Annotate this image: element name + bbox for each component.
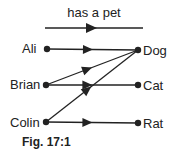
arrow-colin-to-rat bbox=[46, 118, 138, 127]
node-dot-brian bbox=[43, 82, 49, 88]
relation-arrow bbox=[45, 23, 143, 33]
arrow-brian-to-dog bbox=[46, 50, 138, 85]
arrow-colin-to-dog bbox=[46, 50, 138, 122]
arrow-ali-to-dog bbox=[47, 45, 138, 54]
node-dot-dog bbox=[135, 47, 141, 53]
codomain-label-rat: Rat bbox=[143, 116, 164, 131]
mapping-diagram: has a pet Ali Brian Colin Dog Cat Rat Fi… bbox=[0, 0, 176, 157]
relation-label: has a pet bbox=[67, 5, 121, 20]
node-dot-ali bbox=[44, 46, 50, 52]
domain-label-ali: Ali bbox=[22, 41, 37, 56]
domain-label-brian: Brian bbox=[10, 77, 40, 92]
node-dot-colin bbox=[43, 119, 49, 125]
figure-caption: Fig. 17:1 bbox=[22, 135, 71, 149]
domain-label-colin: Colin bbox=[10, 115, 40, 130]
node-dot-cat bbox=[135, 82, 141, 88]
codomain-label-dog: Dog bbox=[143, 43, 167, 58]
arrow-brian-to-cat bbox=[46, 81, 138, 90]
node-dot-rat bbox=[135, 120, 141, 126]
codomain-label-cat: Cat bbox=[143, 78, 164, 93]
